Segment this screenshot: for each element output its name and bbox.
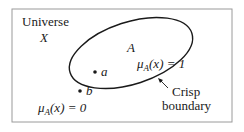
outside-membership: μA(x) = 0 (37, 100, 87, 117)
point-a-label: a (101, 64, 108, 79)
crisp-set-diagram: Universe X A μA(x) = 1 a b μA(x) = 0 Cri… (0, 0, 244, 132)
universe-label: Universe (22, 14, 69, 29)
inside-membership: μA(x) = 1 (136, 56, 185, 73)
boundary-label-line2: boundary (162, 98, 212, 113)
universe-symbol: X (39, 30, 49, 45)
point-a-marker (93, 70, 97, 74)
set-symbol: A (126, 40, 135, 55)
point-b-label: b (86, 83, 93, 98)
point-b-marker (78, 89, 82, 93)
boundary-label-line1: Crisp (172, 84, 200, 99)
